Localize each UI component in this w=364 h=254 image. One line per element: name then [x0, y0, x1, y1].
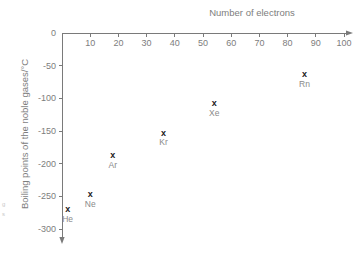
chart-container: 0102030405060708090100 -50-100-150-200-2… — [0, 0, 364, 254]
edge-artifact-line1: g — [2, 201, 5, 207]
y-axis-title: Boiling points of the noble gases/°C — [19, 59, 30, 209]
x-axis-tick-label: 30 — [142, 38, 152, 48]
data-point-label: Rn — [299, 79, 310, 89]
x-axis-tick-label: 90 — [311, 38, 321, 48]
y-axis: -50-100-150-200-250-300 — [38, 33, 65, 244]
data-point-label: Kr — [159, 137, 168, 147]
data-points: xHexNexArxKrxXexRn — [62, 69, 310, 224]
x-axis-tick-label: 10 — [85, 38, 95, 48]
edge-artifact-line2: s — [2, 211, 5, 217]
x-axis-arrow-icon — [346, 30, 353, 35]
y-axis-tick-label: -100 — [38, 93, 56, 103]
y-axis-tick-label: -150 — [38, 126, 56, 136]
x-axis-tick-label: 20 — [113, 38, 123, 48]
x-axis-tick-label: 0 — [51, 28, 56, 38]
data-point-label: Ar — [109, 160, 118, 170]
data-point-label: Xe — [209, 108, 220, 118]
x-axis-tick-label: 70 — [254, 38, 264, 48]
x-axis-title: Number of electrons — [209, 7, 295, 18]
data-point-marker: x — [110, 150, 115, 160]
x-axis-tick-label: 60 — [226, 38, 236, 48]
data-point-marker: x — [65, 204, 70, 214]
x-axis-tick-label: 40 — [170, 38, 180, 48]
y-axis-tick-label: -200 — [38, 159, 56, 169]
y-axis-tick-label: -50 — [43, 61, 56, 71]
x-axis: 0102030405060708090100 — [51, 28, 353, 48]
data-point-label: Ne — [85, 199, 96, 209]
y-axis-arrow-icon — [59, 237, 64, 244]
data-point-label: He — [62, 214, 73, 224]
y-axis-tick-label: -250 — [38, 191, 56, 201]
data-point-marker: x — [161, 128, 166, 138]
x-axis-tick-label: 100 — [336, 38, 351, 48]
x-axis-tick-label: 50 — [198, 38, 208, 48]
y-axis-tick-label: -300 — [38, 224, 56, 234]
x-axis-tick-label: 80 — [283, 38, 293, 48]
data-point-marker: x — [212, 98, 217, 108]
data-point-marker: x — [302, 69, 307, 79]
noble-gas-boiling-point-scatter-plot: 0102030405060708090100 -50-100-150-200-2… — [0, 0, 364, 254]
data-point-marker: x — [88, 189, 93, 199]
